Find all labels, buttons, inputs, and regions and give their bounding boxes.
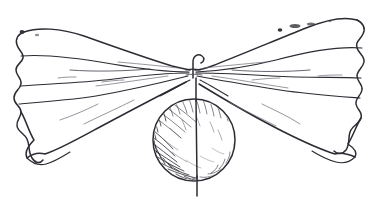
under-knot-sweep-left (160, 80, 190, 96)
right-wing-bottom-contour (199, 84, 361, 157)
speck-dot-right-1 (278, 28, 283, 31)
stem-through-sphere (196, 100, 197, 178)
right-wing-inner-dash-a (318, 75, 342, 76)
speck-dash-right-2 (290, 24, 301, 28)
sphere-group (150, 99, 238, 181)
right-wing-top-contour (195, 18, 357, 70)
left-wing-edge (14, 32, 43, 162)
left-wing-inner-dash-c (60, 104, 98, 120)
knot-group (186, 55, 204, 78)
speck-dot-left-2 (35, 34, 39, 37)
left-wing-inner-dash-d (84, 100, 134, 124)
sphere-outline (153, 99, 235, 181)
right-wing-inner-fold-a (232, 70, 310, 72)
left-wing-group (14, 29, 190, 165)
right-wing-inner-dash-b (252, 78, 280, 80)
left-wing-top-contour (24, 29, 190, 70)
speck-dash-right-3 (307, 23, 315, 26)
ink-drawing (0, 0, 372, 207)
speck-dot-center (328, 20, 331, 22)
knot-tick-lower (186, 74, 202, 75)
left-wing-inner-fold-b (96, 76, 168, 86)
left-wing-fold-2 (20, 73, 189, 86)
right-wing-edge (334, 20, 364, 154)
sphere-hatching (150, 99, 238, 181)
right-wing-inner-dash-d (228, 102, 276, 126)
right-wing-fold-1 (196, 48, 362, 72)
left-wing-inner-dash-a (58, 77, 76, 78)
left-wing-inner-fold-a (70, 69, 150, 71)
drawing-canvas: Bow with suspended hatched sphere Left r… (0, 0, 372, 207)
speck-dot-left-1 (20, 30, 25, 34)
right-wing-inner-dash-c (262, 104, 300, 124)
ink-speck-group (20, 20, 332, 37)
right-wing-fold-3 (197, 76, 360, 98)
left-wing-bottom-contour (21, 82, 186, 158)
right-wing-group (195, 18, 364, 162)
